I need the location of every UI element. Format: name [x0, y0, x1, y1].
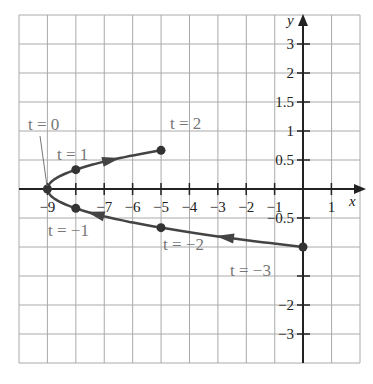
data-point: [71, 165, 80, 174]
data-point: [157, 223, 166, 232]
x-axis-label: x: [348, 193, 356, 209]
svg-text:−0.5: −0.5: [267, 210, 294, 226]
svg-text:2: 2: [287, 65, 295, 81]
svg-text:−6: −6: [125, 199, 141, 215]
svg-text:−3: −3: [278, 326, 294, 342]
point-label: t = 2: [170, 114, 201, 133]
data-point: [157, 146, 166, 155]
point-label: t = 1: [57, 145, 88, 164]
axes: xy: [19, 12, 366, 363]
y-axis-label: y: [285, 12, 294, 28]
svg-text:−9: −9: [39, 199, 55, 215]
svg-text:−2: −2: [278, 297, 294, 313]
svg-text:−5: −5: [153, 199, 169, 215]
svg-text:3: 3: [287, 36, 295, 52]
svg-text:1: 1: [287, 123, 295, 139]
svg-text:1: 1: [328, 199, 336, 215]
data-point: [71, 204, 80, 213]
svg-text:−3: −3: [210, 199, 226, 215]
point-label: t = −2: [163, 235, 204, 254]
parametric-curve-chart: xy −9−7−6−5−4−3−2−11321.510.5−0.5−2−3 t …: [0, 0, 373, 384]
point-label: t = 0: [28, 115, 59, 134]
svg-text:−2: −2: [238, 199, 254, 215]
svg-text:−4: −4: [181, 199, 197, 215]
svg-text:1.5: 1.5: [275, 94, 294, 110]
point-label: t = −3: [230, 261, 271, 280]
data-point: [299, 243, 308, 252]
svg-text:0.5: 0.5: [275, 152, 294, 168]
point-labels: t = −3t = −2t = −1t = 0t = 1t = 2: [28, 114, 271, 280]
point-label: t = −1: [48, 221, 89, 240]
